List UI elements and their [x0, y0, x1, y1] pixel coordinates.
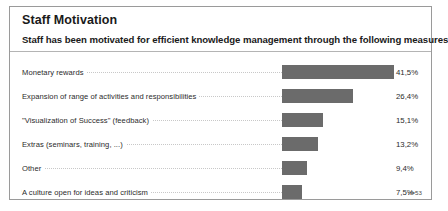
bar-value-label: 26,4% [396, 92, 418, 101]
bar-category-label: "Visualization of Success" (feedback) [22, 116, 152, 125]
bar [282, 113, 323, 127]
bar [282, 161, 307, 175]
bar-category-label: Monetary rewards [22, 68, 87, 77]
bar [282, 137, 318, 151]
bar [282, 185, 302, 199]
bar [282, 89, 353, 103]
bar-row: Other9,4% [10, 156, 431, 180]
bar-category-label: Extras (seminars, training, ...) [22, 140, 126, 149]
bar-row: "Visualization of Success" (feedback)15,… [10, 108, 431, 132]
bar-value-label: 13,2% [396, 140, 418, 149]
bar-row: Extras (seminars, training, ...)13,2% [10, 132, 431, 156]
bar-value-label: 15,1% [396, 116, 418, 125]
bar-row: A culture open for ideas and criticism7,… [10, 180, 431, 204]
bar-category-label: Other [22, 164, 44, 173]
bar [282, 65, 394, 79]
bar-value-label: 7,5% [396, 188, 414, 197]
bar-value-label: 9,4% [396, 164, 414, 173]
bar-row: Expansion of range of activities and res… [10, 84, 431, 108]
bar-row: Monetary rewards41,5% [10, 60, 431, 84]
page-title: Staff Motivation [22, 13, 117, 27]
bar-category-label: A culture open for ideas and criticism [22, 188, 151, 197]
chart-subtitle: Staff has been motivated for efficient k… [22, 34, 448, 45]
leader-line [22, 168, 282, 169]
bar-value-label: 41,5% [396, 68, 418, 77]
chart-panel: Staff Motivation Staff has been motivate… [9, 6, 432, 200]
bar-category-label: Expansion of range of activities and res… [22, 92, 199, 101]
bar-chart-plot: Monetary rewards41,5%Expansion of range … [10, 52, 431, 199]
